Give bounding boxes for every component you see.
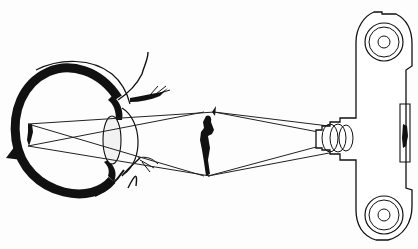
eyelash-upper bbox=[130, 88, 168, 102]
retina-image bbox=[27, 124, 33, 146]
standing-person-silhouette bbox=[200, 106, 216, 176]
eye-upper-eyelid bbox=[118, 52, 148, 100]
film-plane-image bbox=[402, 124, 408, 148]
object-figure bbox=[200, 106, 216, 176]
camera-body bbox=[316, 12, 412, 240]
diagram-canvas bbox=[0, 0, 418, 249]
ray-cam-bottom-2 bbox=[208, 150, 345, 176]
eye-lens bbox=[103, 116, 121, 164]
eye-camera-diagram bbox=[0, 0, 418, 249]
eye-rays bbox=[28, 112, 215, 176]
camera bbox=[316, 12, 412, 240]
